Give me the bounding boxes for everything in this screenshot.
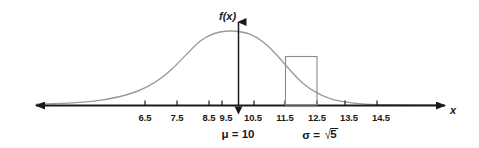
x-axis-label: x (450, 105, 456, 116)
x-tick-label: 9.5 (220, 113, 233, 123)
probability-rectangle (286, 57, 318, 106)
normal-distribution-figure: f(x) x 6.5 7.5 8.5 9.5 10.5 11.5 12.5 13… (0, 0, 479, 148)
x-tick-label: 13.5 (340, 113, 358, 123)
y-axis-label: f(x) (219, 11, 236, 22)
x-tick-label: 14.5 (372, 113, 390, 123)
square-root-expression: √5 (323, 128, 338, 142)
radicand: 5 (330, 128, 337, 141)
x-tick-label: 10.5 (244, 113, 262, 123)
sigma-prefix: σ = (302, 129, 323, 141)
x-tick-label: 7.5 (171, 113, 184, 123)
x-tick-label: 12.5 (308, 113, 326, 123)
x-tick-label: 11.5 (276, 113, 294, 123)
plot-canvas (0, 0, 479, 148)
x-tick-label: 6.5 (139, 113, 152, 123)
mean-annotation: μ = 10 (222, 129, 255, 141)
sigma-annotation: σ = √5 (302, 128, 338, 142)
normal-curve (36, 31, 443, 105)
mean-marker-triangle (235, 107, 243, 115)
x-tick-label: 8.5 (203, 113, 216, 123)
